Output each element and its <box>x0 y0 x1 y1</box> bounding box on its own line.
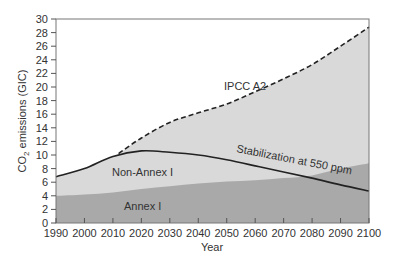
y-axis-title: CO2 emissions (GIC) <box>16 70 31 173</box>
x-tick-label: 2090 <box>328 227 352 239</box>
emissions-chart: 1990200020102020203020402050206020702080… <box>0 0 395 267</box>
x-tick-label: 2050 <box>214 227 238 239</box>
y-tick-label: 2 <box>42 203 48 215</box>
x-tick-label: 2070 <box>271 227 295 239</box>
x-tick-label: 2060 <box>243 227 267 239</box>
x-tick-label: 2040 <box>186 227 210 239</box>
x-axis-title: Year <box>201 241 224 253</box>
y-tick-label: 30 <box>36 13 48 25</box>
label-non-annex-i: Non-Annex I <box>112 166 173 178</box>
y-tick-label: 14 <box>36 122 48 134</box>
x-tick-label: 2020 <box>129 227 153 239</box>
y-tick-label: 18 <box>36 95 48 107</box>
y-tick-label: 24 <box>36 54 48 66</box>
y-tick-label: 10 <box>36 149 48 161</box>
y-axis: 024681012141618202224262830 <box>36 13 56 229</box>
y-tick-label: 0 <box>42 217 48 229</box>
x-tick-label: 2080 <box>300 227 324 239</box>
y-tick-label: 6 <box>42 176 48 188</box>
y-tick-label: 8 <box>42 163 48 175</box>
y-tick-label: 4 <box>42 190 48 202</box>
y-tick-label: 28 <box>36 27 48 39</box>
plot-areas <box>56 27 369 223</box>
label-ipcc-a2: IPCC A2 <box>224 80 266 92</box>
y-tick-label: 12 <box>36 135 48 147</box>
y-tick-label: 16 <box>36 108 48 120</box>
x-tick-label: 2100 <box>357 227 381 239</box>
x-tick-label: 2000 <box>72 227 96 239</box>
x-tick-label: 2010 <box>101 227 125 239</box>
x-tick-label: 2030 <box>158 227 182 239</box>
y-tick-label: 22 <box>36 67 48 79</box>
label-annex-i: Annex I <box>124 200 161 212</box>
y-tick-label: 20 <box>36 81 48 93</box>
y-tick-label: 26 <box>36 40 48 52</box>
